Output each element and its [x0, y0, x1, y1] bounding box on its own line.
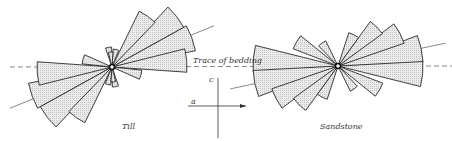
till-label: Till [122, 122, 135, 131]
c-axis-label: c [209, 75, 213, 84]
sandstone-rose-diagram [230, 22, 445, 111]
sandstone-label: Sandstone [320, 122, 363, 131]
center-point-icon [336, 64, 341, 69]
a-axis-label: a [191, 97, 196, 106]
axis-reference [188, 78, 246, 138]
till-rose-diagram [10, 7, 214, 127]
rose-diagram-figure: Trace of bedding c a Till Sandstone [0, 0, 452, 141]
a-axis-arrowhead-icon [240, 104, 246, 108]
center-point-icon [110, 65, 115, 70]
rose-diagrams-svg [0, 0, 452, 141]
bedding-label: Trace of bedding [193, 56, 262, 65]
